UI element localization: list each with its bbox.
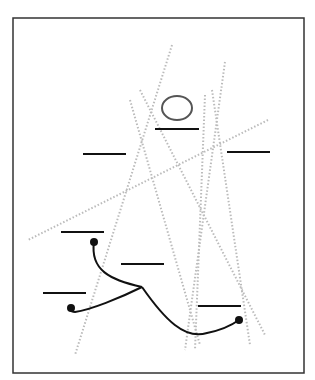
dotted-line: [130, 100, 200, 345]
wire-endpoint-dot: [235, 316, 243, 324]
circle-symbol: [162, 96, 192, 120]
diagram-frame: [13, 18, 304, 373]
dotted-line: [140, 90, 265, 335]
connecting-wires: [70, 242, 239, 334]
dotted-guide-lines: [28, 45, 268, 355]
wire-path: [70, 287, 142, 312]
diagram-canvas: [0, 0, 315, 380]
wire-endpoint-dot: [90, 238, 98, 246]
slot-lines: [43, 129, 270, 306]
wire-path: [142, 287, 239, 334]
wire-endpoint-dot: [67, 304, 75, 312]
